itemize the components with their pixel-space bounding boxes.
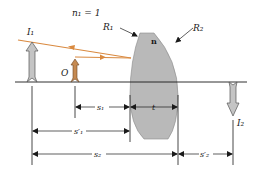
thick-lens-diagram: n₁ = 1 R₁ R₂ n I₁ O I₂ s₁ t s′₁ s₂ s′₂ bbox=[0, 0, 257, 175]
s2-prime-label: s′₂ bbox=[200, 150, 209, 159]
r1-pointer bbox=[120, 28, 137, 36]
r1-label: R₁ bbox=[102, 22, 113, 32]
ray-arrow-icon bbox=[100, 55, 106, 61]
s1-label: s₁ bbox=[97, 103, 104, 112]
ray-arrow-icon bbox=[68, 45, 75, 50]
image-arrow-i2 bbox=[227, 82, 239, 116]
r2-pointer bbox=[176, 28, 193, 42]
thick-lens bbox=[130, 33, 178, 139]
image-arrow-i1 bbox=[26, 42, 38, 82]
r2-label: R₂ bbox=[192, 23, 204, 33]
i2-label: I₂ bbox=[236, 118, 245, 128]
object-arrow bbox=[71, 59, 79, 82]
s1-prime-label: s′₁ bbox=[74, 127, 83, 136]
s2-label: s₂ bbox=[94, 150, 101, 159]
medium-index-label: n₁ = 1 bbox=[72, 8, 100, 18]
i1-label: I₁ bbox=[26, 27, 34, 37]
lens-index-label: n bbox=[151, 36, 157, 46]
object-label: O bbox=[61, 68, 69, 78]
